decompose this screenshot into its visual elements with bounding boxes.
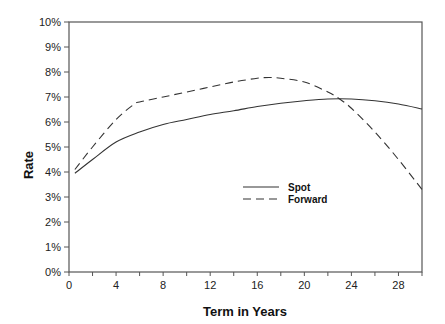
- x-tick-label: 28: [392, 279, 404, 291]
- x-tick-label: 0: [66, 279, 72, 291]
- line-chart: 0%1%2%3%4%5%6%7%8%9%10% 0481216202428 Sp…: [0, 0, 445, 324]
- y-axis-title: Rate: [21, 151, 36, 179]
- x-axis: 0481216202428: [66, 272, 422, 291]
- y-tick-label: 7%: [45, 91, 61, 103]
- x-tick-label: 4: [113, 279, 119, 291]
- y-tick-label: 4%: [45, 166, 61, 178]
- x-tick-label: 8: [160, 279, 166, 291]
- x-tick-label: 16: [251, 279, 263, 291]
- y-tick-label: 6%: [45, 116, 61, 128]
- series-forward-line: [75, 78, 422, 190]
- y-tick-label: 2%: [45, 216, 61, 228]
- y-tick-label: 9%: [45, 41, 61, 53]
- y-tick-label: 0%: [45, 266, 61, 278]
- plot-area-border: [69, 22, 422, 272]
- y-tick-label: 5%: [45, 141, 61, 153]
- plot-frame: [69, 22, 422, 272]
- legend: SpotForward: [243, 182, 327, 205]
- y-axis: 0%1%2%3%4%5%6%7%8%9%10%: [39, 16, 69, 278]
- series-lines: [75, 78, 422, 190]
- x-axis-title: Term in Years: [203, 304, 287, 319]
- legend-label-forward: Forward: [288, 194, 327, 205]
- x-tick-label: 20: [298, 279, 310, 291]
- legend-label-spot: Spot: [288, 182, 311, 193]
- y-tick-label: 3%: [45, 191, 61, 203]
- x-tick-label: 24: [345, 279, 357, 291]
- x-tick-label: 12: [204, 279, 216, 291]
- y-tick-label: 10%: [39, 16, 61, 28]
- y-tick-label: 1%: [45, 241, 61, 253]
- y-tick-label: 8%: [45, 66, 61, 78]
